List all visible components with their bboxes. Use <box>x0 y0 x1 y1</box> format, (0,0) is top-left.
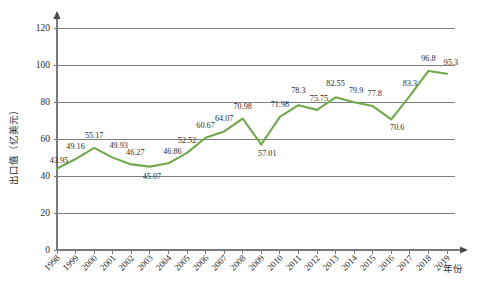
x-axis-title: 年份 <box>443 263 463 274</box>
data-point-labels: 43.9549.1655.1749.9346.2745.0746.8652.52… <box>50 54 458 181</box>
y-tick-label: 100 <box>36 60 51 70</box>
axes <box>53 11 468 254</box>
x-axis-ticks: 1998199920002001200220032004200520062007… <box>42 250 452 273</box>
x-tick-label: 2017 <box>395 252 415 272</box>
y-tick-label: 20 <box>41 208 51 218</box>
x-tick-label: 2010 <box>265 252 285 272</box>
data-point-label: 52.52 <box>178 136 196 145</box>
x-axis-arrow-icon <box>460 246 468 253</box>
y-tick-label: 40 <box>41 171 51 181</box>
y-tick-label: 60 <box>41 134 51 144</box>
x-tick-label: 2016 <box>376 252 396 272</box>
series-line-export-value <box>57 71 447 169</box>
data-point-label: 60.67 <box>196 121 214 130</box>
data-point-label: 64.07 <box>215 114 233 123</box>
data-point-label: 95.3 <box>444 58 458 67</box>
x-tick-label: 2009 <box>246 252 266 272</box>
data-point-label: 82.55 <box>326 79 344 88</box>
data-point-label: 79.9 <box>349 86 363 95</box>
data-point-label: 55.17 <box>85 131 103 140</box>
data-point-label: 78.3 <box>291 86 305 95</box>
data-point-label: 96.8 <box>421 54 435 63</box>
y-axis-ticks: 020406080100120 <box>36 23 57 255</box>
y-tick-label: 80 <box>41 97 51 107</box>
x-tick-label: 2004 <box>154 252 174 272</box>
x-tick-label: 2001 <box>98 253 118 273</box>
x-tick-label: 2015 <box>358 252 378 272</box>
y-axis-title: 出口值（亿美元） <box>8 105 19 185</box>
x-tick-label: 2018 <box>414 252 434 272</box>
data-point-label: 77.8 <box>368 89 382 98</box>
data-point-label: 45.07 <box>143 172 161 181</box>
x-tick-label: 1999 <box>61 252 81 272</box>
data-point-label: 83.3 <box>403 79 417 88</box>
data-point-label: 43.95 <box>50 156 68 165</box>
x-tick-label: 2003 <box>135 252 155 272</box>
data-point-label: 75.75 <box>310 94 328 103</box>
x-tick-label: 2008 <box>228 252 248 272</box>
data-point-label: 70.6 <box>390 123 404 132</box>
x-tick-label: 2007 <box>209 252 229 272</box>
line-chart: 020406080100120出口值（亿美元）19981999200020012… <box>0 0 495 293</box>
data-point-label: 57.01 <box>258 149 276 158</box>
data-point-label: 71.98 <box>271 100 289 109</box>
y-tick-label: 0 <box>45 245 50 255</box>
x-tick-label: 2012 <box>302 253 322 273</box>
y-axis-arrow-icon <box>53 11 60 19</box>
data-point-label: 46.86 <box>163 147 181 156</box>
x-tick-label: 2013 <box>321 252 341 272</box>
x-tick-label: 2011 <box>284 253 304 273</box>
x-tick-label: 2000 <box>79 252 99 272</box>
x-tick-label: 2006 <box>191 252 211 272</box>
x-tick-label: 2005 <box>172 252 192 272</box>
data-point-label: 70.98 <box>234 102 252 111</box>
y-tick-label: 120 <box>36 23 51 33</box>
chart-canvas: 020406080100120出口值（亿美元）19981999200020012… <box>0 0 495 293</box>
data-point-label: 49.16 <box>66 142 84 151</box>
gridlines <box>57 28 455 213</box>
x-tick-label: 1998 <box>42 252 62 272</box>
data-point-label: 46.27 <box>126 148 144 157</box>
x-tick-label: 2014 <box>339 252 359 272</box>
x-tick-label: 2002 <box>116 253 136 273</box>
